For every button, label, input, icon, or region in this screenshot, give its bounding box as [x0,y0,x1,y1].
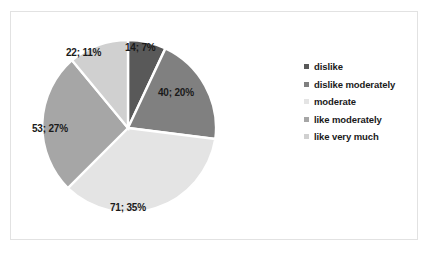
pie-label-like-moderately: 53; 27% [32,123,68,134]
pie-label-dislike: 14; 7% [125,42,156,53]
pie-label-moderate: 71; 35% [110,202,146,213]
legend-item-dislike[interactable]: dislike [304,58,414,76]
legend-item-like-very-much[interactable]: like very much [304,128,414,146]
legend-item-label: moderate [314,96,356,107]
legend-marker-icon [304,134,309,139]
legend-item-dislike-moderately[interactable]: dislike moderately [304,76,414,94]
legend-item-label: dislike [314,61,343,72]
legend-item-label: dislike moderately [314,79,395,90]
pie-label-dislike-moderately: 40; 20% [158,87,194,98]
legend-item-label: like very much [314,131,379,142]
legend-marker-icon [304,117,309,122]
legend: dislike dislike moderately moderate like… [304,58,414,146]
pie-label-like-very-much: 22; 11% [66,47,101,58]
legend-marker-icon [304,64,309,69]
legend-marker-icon [304,82,309,87]
legend-item-label: like moderately [314,114,382,125]
pie-chart: 14; 7% 40; 20% 71; 35% 53; 27% 22; 11% d… [0,0,429,253]
legend-marker-icon [304,99,309,104]
legend-item-like-moderately[interactable]: like moderately [304,111,414,129]
legend-item-moderate[interactable]: moderate [304,93,414,111]
